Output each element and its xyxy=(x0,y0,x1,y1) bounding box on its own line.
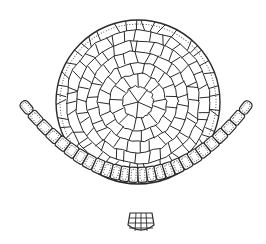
tissue-cross-section-figure xyxy=(0,0,266,244)
cell-drawing xyxy=(0,0,266,244)
central-small-cell-cluster xyxy=(128,213,154,231)
